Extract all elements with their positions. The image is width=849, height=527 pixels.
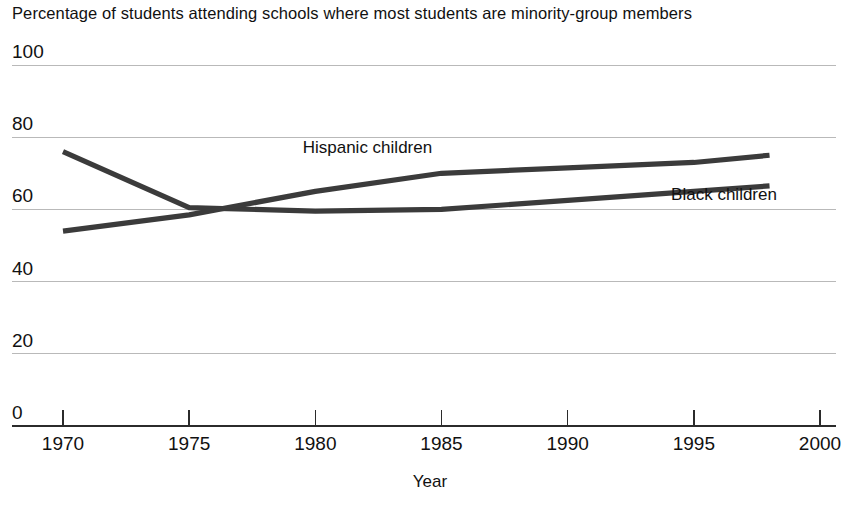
- series-label-black-children: Black children: [671, 185, 777, 204]
- line-chart-plot: 020406080100 197019751980198519901995200…: [0, 0, 849, 527]
- y-axis-tick-label-0: 0: [12, 402, 23, 423]
- data-series-group: [63, 152, 770, 231]
- x-axis-tick-label-1990: 1990: [547, 433, 589, 454]
- gridlines-group: [12, 65, 836, 426]
- chart-container: Percentage of students attending schools…: [0, 0, 849, 527]
- y-axis-labels-group: 020406080100: [12, 41, 44, 423]
- x-axis-tick-label-1975: 1975: [168, 433, 210, 454]
- x-axis-tick-label-1970: 1970: [42, 433, 84, 454]
- x-axis-tick-label-1980: 1980: [294, 433, 336, 454]
- data-line-black-children: [63, 152, 770, 212]
- y-axis-tick-label-20: 20: [12, 330, 33, 351]
- x-axis-group: [12, 410, 836, 426]
- y-axis-tick-label-100: 100: [12, 41, 44, 62]
- y-axis-tick-label-40: 40: [12, 258, 33, 279]
- x-axis-tick-label-1995: 1995: [673, 433, 715, 454]
- x-axis-tick-label-2000: 2000: [799, 433, 841, 454]
- y-axis-tick-label-80: 80: [12, 113, 33, 134]
- x-axis-title: Year: [413, 472, 448, 491]
- y-axis-tick-label-60: 60: [12, 185, 33, 206]
- x-axis-tick-label-1985: 1985: [420, 433, 462, 454]
- series-label-hispanic-children: Hispanic children: [303, 138, 432, 157]
- x-axis-labels-group: 1970197519801985199019952000: [42, 433, 841, 454]
